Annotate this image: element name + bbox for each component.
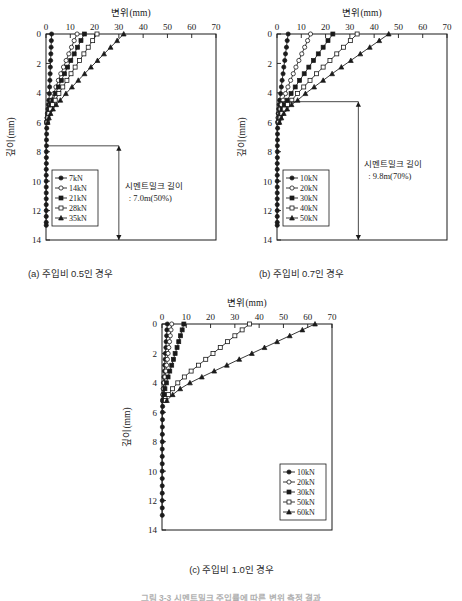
- panel-b-caption: (b) 주입비 0.7인 경우: [231, 266, 462, 280]
- marker-filled-circle: [160, 462, 164, 466]
- marker-filled-circle: [160, 513, 164, 517]
- marker-open-circle: [287, 480, 291, 484]
- marker-filled-square: [69, 58, 73, 62]
- x-tick-label: 40: [370, 22, 380, 32]
- marker-open-square: [167, 393, 171, 397]
- legend: 10kN20kN30kN50kN60kN: [280, 464, 326, 520]
- y-tick-label: 10: [32, 177, 42, 187]
- legend-label: 30kN: [297, 488, 315, 497]
- marker-open-circle: [59, 186, 63, 190]
- marker-filled-square: [287, 490, 291, 494]
- marker-open-circle: [164, 369, 168, 373]
- panel-a-caption: (a) 주입비 0.5인 경우: [0, 266, 259, 280]
- panel-c: 변위(mm)깊이(mm)0102030405060700246810121410…: [116, 290, 347, 586]
- marker-filled-circle: [160, 476, 164, 480]
- marker-filled-triangle: [300, 327, 305, 332]
- annotation-line2: : 9.8m(70%): [368, 171, 411, 181]
- marker-open-circle: [283, 91, 287, 95]
- y-tick-label: 0: [153, 319, 158, 329]
- y-tick-label: 2: [153, 349, 158, 359]
- x-axis-title: 변위(mm): [227, 297, 266, 309]
- legend-label: 20kN: [297, 478, 315, 487]
- marker-open-square: [342, 45, 346, 49]
- x-tick-label: 60: [187, 22, 197, 32]
- marker-filled-circle: [44, 214, 48, 218]
- marker-filled-triangle: [330, 71, 335, 76]
- marker-filled-circle: [275, 223, 279, 227]
- marker-open-square: [335, 52, 339, 56]
- marker-open-circle: [75, 32, 79, 36]
- legend-label: 21kN: [69, 194, 87, 203]
- legend: 10kN20kN30kN40kN50kN: [283, 170, 329, 226]
- marker-filled-circle: [275, 179, 279, 183]
- marker-open-square: [218, 346, 222, 350]
- marker-filled-circle: [276, 126, 280, 130]
- legend-label: 20kN: [300, 184, 318, 193]
- marker-filled-circle: [285, 39, 289, 43]
- marker-open-circle: [64, 58, 68, 62]
- marker-filled-circle: [160, 469, 164, 473]
- y-tick-label: 4: [268, 88, 273, 98]
- x-tick-label: 70: [212, 22, 222, 32]
- marker-filled-circle: [49, 45, 53, 49]
- y-tick-label: 6: [153, 408, 158, 418]
- marker-filled-circle: [44, 156, 48, 160]
- x-axis-title: 변위(mm): [111, 7, 150, 19]
- legend-label: 10kN: [300, 174, 318, 183]
- series-35kN: [45, 32, 126, 125]
- marker-open-square: [247, 322, 251, 326]
- annotation-arrow-head-top: [356, 102, 361, 107]
- marker-open-circle: [289, 78, 293, 82]
- marker-open-square: [355, 32, 359, 36]
- marker-filled-square: [289, 92, 293, 96]
- marker-filled-circle: [275, 173, 279, 177]
- figure-page: 변위(mm)깊이(mm)01020304050607002468101214시멘…: [0, 0, 462, 601]
- legend: 7kN14kN21kN28kN35kN: [52, 170, 98, 226]
- marker-open-square: [308, 78, 312, 82]
- marker-filled-circle: [275, 144, 279, 148]
- marker-filled-circle: [286, 32, 290, 36]
- marker-filled-square: [76, 45, 80, 49]
- marker-filled-square: [72, 52, 76, 56]
- marker-filled-circle: [281, 72, 285, 76]
- marker-filled-square: [180, 328, 184, 332]
- marker-filled-triangle: [287, 333, 292, 338]
- x-tick-label: 70: [443, 22, 453, 32]
- marker-open-square: [82, 52, 86, 56]
- marker-filled-circle: [275, 191, 279, 195]
- marker-open-circle: [168, 334, 172, 338]
- marker-open-square: [69, 72, 73, 76]
- marker-open-square: [176, 381, 180, 385]
- marker-open-square: [233, 334, 237, 338]
- marker-filled-triangle: [224, 363, 229, 368]
- marker-open-circle: [306, 39, 310, 43]
- marker-filled-circle: [161, 404, 165, 408]
- marker-open-square: [287, 500, 291, 504]
- marker-filled-square: [293, 85, 297, 89]
- marker-filled-circle: [49, 52, 53, 56]
- marker-filled-triangle: [178, 386, 183, 391]
- marker-open-square: [240, 328, 244, 332]
- marker-open-square: [204, 357, 208, 361]
- marker-filled-circle: [275, 208, 279, 212]
- marker-filled-circle: [160, 506, 164, 510]
- annotation-line1: 시멘트밀크 길이: [364, 159, 422, 169]
- x-tick-label: 70: [328, 312, 338, 322]
- marker-open-square: [302, 85, 306, 89]
- marker-filled-circle: [49, 58, 53, 62]
- x-tick-label: 20: [90, 22, 100, 32]
- y-tick-label: 14: [32, 235, 42, 245]
- marker-filled-triangle: [199, 374, 204, 379]
- marker-filled-circle: [275, 185, 279, 189]
- marker-filled-circle: [44, 179, 48, 183]
- marker-filled-circle: [44, 191, 48, 195]
- marker-filled-triangle: [358, 51, 363, 56]
- marker-open-square: [295, 92, 299, 96]
- marker-open-square: [189, 369, 193, 373]
- marker-open-square: [57, 92, 61, 96]
- marker-filled-triangle: [339, 65, 344, 70]
- marker-open-square: [321, 65, 325, 69]
- marker-filled-circle: [165, 322, 169, 326]
- chart-c: 변위(mm)깊이(mm)0102030405060700246810121410…: [116, 290, 347, 562]
- marker-filled-square: [166, 375, 170, 379]
